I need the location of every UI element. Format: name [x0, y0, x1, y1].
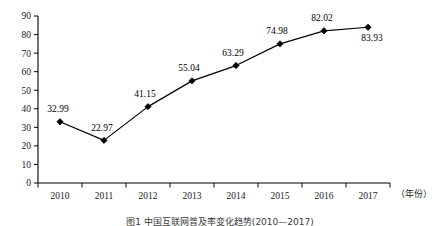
data-point-label: 55.04 — [178, 63, 200, 73]
data-point-label: 82.02 — [311, 13, 333, 23]
chart-canvas: 0102030405060708090 20102011201220132014… — [0, 0, 440, 226]
data-point-label: 32.99 — [47, 104, 69, 114]
data-point-label: 22.97 — [91, 123, 113, 133]
y-tick-label: 70 — [22, 49, 32, 59]
line-chart-figure: 0102030405060708090 20102011201220132014… — [0, 0, 440, 226]
y-tick-label: 80 — [22, 30, 32, 40]
data-point-label: 83.93 — [361, 33, 383, 43]
data-point-label: 74.98 — [266, 26, 288, 36]
x-tick-label: 2010 — [51, 191, 70, 201]
data-point-label: 63.29 — [222, 48, 244, 58]
x-tick-label: 2012 — [139, 191, 158, 201]
y-tick-label: 10 — [22, 160, 32, 170]
y-tick-label: 40 — [22, 104, 32, 114]
x-tick-label: 2013 — [183, 191, 202, 201]
y-tick-label: 90 — [22, 11, 32, 21]
figure-caption: 图1 中国互联网普及率变化趋势(2010—2017) — [0, 217, 440, 226]
y-tick-label: 50 — [22, 86, 32, 96]
x-tick-label: 2017 — [359, 191, 378, 201]
y-tick-label: 30 — [22, 123, 32, 133]
y-tick-label: 0 — [26, 178, 31, 188]
x-tick-label: 2015 — [271, 191, 290, 201]
y-tick-label: 20 — [22, 141, 32, 151]
x-tick-label: 2014 — [227, 191, 246, 201]
y-tick-label: 60 — [22, 67, 32, 77]
data-point-label: 41.15 — [134, 89, 156, 99]
x-tick-label: 2016 — [315, 191, 334, 201]
x-tick-label: 2011 — [95, 191, 114, 201]
x-axis-name-label: （年份） — [396, 188, 432, 199]
